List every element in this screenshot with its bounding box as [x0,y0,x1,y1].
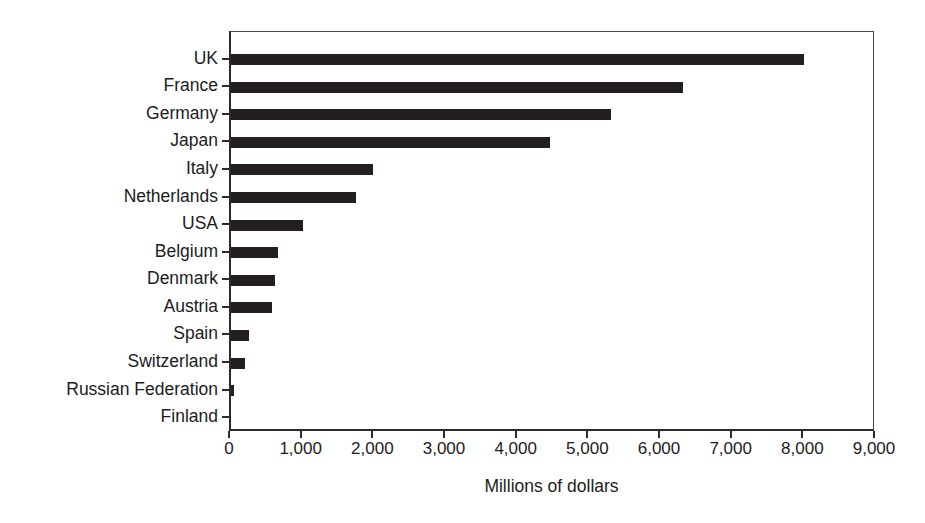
x-axis-tick [371,431,373,438]
bar-row [231,45,876,74]
y-axis-tick-label: Netherlands [0,188,229,206]
bar [231,302,272,313]
x-axis-tick [586,431,588,438]
x-axis-tick-label: 6,000 [638,440,681,457]
x-axis-tick [228,431,230,438]
bar-row [231,100,876,129]
bar [231,54,804,65]
y-axis-tick-label: Finland [0,408,229,426]
bar-row [231,238,876,267]
x-axis-tick [515,431,517,438]
bar-row [231,266,876,295]
bar [231,164,373,175]
x-axis-tick-label: 8,000 [781,440,824,457]
x-axis-tick [300,431,302,438]
x-axis-ticks [229,431,874,439]
y-axis-tick-label: Denmark [0,270,229,288]
y-axis-labels: UKFranceGermanyJapanItalyNetherlandsUSAB… [0,31,229,431]
y-axis-tick-label: France [0,77,229,95]
bar [231,385,234,396]
x-axis-tick-label: 7,000 [709,440,752,457]
y-axis-tick-label: USA [0,215,229,233]
bar-row [231,183,876,212]
y-axis-tick-label: Russian Federation [0,381,229,399]
bar-chart-figure: UKFranceGermanyJapanItalyNetherlandsUSAB… [0,0,925,523]
y-axis-tick-label: Austria [0,298,229,316]
bar [231,275,275,286]
plot-area [229,31,874,431]
x-axis-tick [443,431,445,438]
bar [231,247,278,258]
bar [231,192,356,203]
x-axis-tick [730,431,732,438]
x-axis-tick-label: 2,000 [351,440,394,457]
bar [231,358,245,369]
x-axis-tick [873,431,875,438]
bar-row [231,349,876,378]
x-axis-tick [658,431,660,438]
x-axis-tick-label: 4,000 [494,440,537,457]
y-axis-tick-label: Belgium [0,243,229,261]
bar-row [231,293,876,322]
x-axis-tick-label: 3,000 [423,440,466,457]
y-axis-tick-label: Switzerland [0,353,229,371]
bar-row [231,211,876,240]
bar-row [231,155,876,184]
x-axis-title: Millions of dollars [229,478,874,496]
bar [231,220,303,231]
x-axis-tick-labels: 01,0002,0003,0004,0005,0006,0007,0008,00… [229,440,874,464]
bar [231,82,683,93]
y-axis-tick-label: Spain [0,325,229,343]
y-axis-tick-label: Germany [0,105,229,123]
x-axis-tick [801,431,803,438]
x-axis-tick-label: 0 [224,440,233,457]
bar [231,109,611,120]
x-axis-tick-label: 1,000 [279,440,322,457]
bar-row [231,321,876,350]
bar-row [231,376,876,405]
bar [231,137,550,148]
x-axis-tick-label: 5,000 [566,440,609,457]
y-axis-tick-label: Italy [0,160,229,178]
bar [231,330,249,341]
y-axis-tick-label: UK [0,50,229,68]
y-axis-tick-label: Japan [0,132,229,150]
bar-row [231,73,876,102]
bar-row [231,128,876,157]
bar-row [231,404,876,433]
x-axis-tick-label: 9,000 [853,440,896,457]
